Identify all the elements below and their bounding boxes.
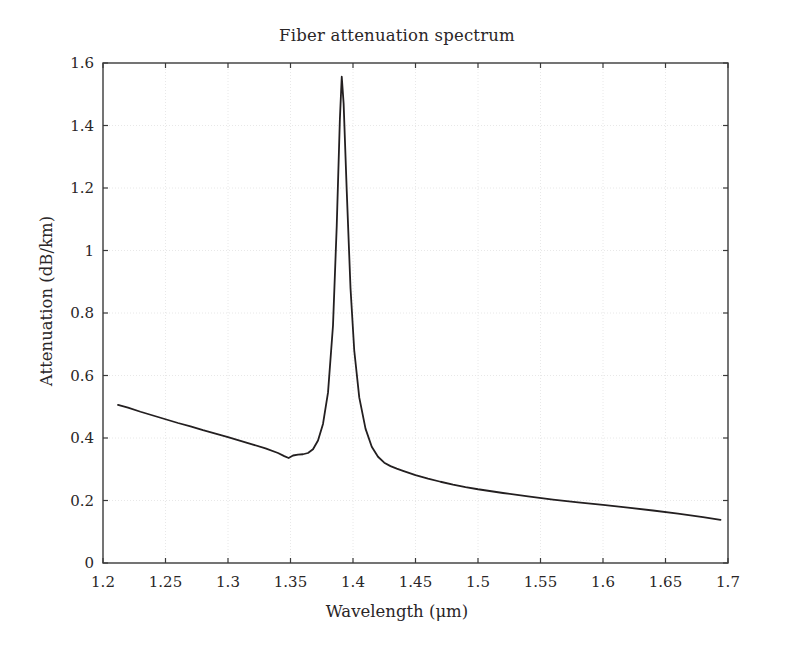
x-tick-label: 1.5 (466, 573, 490, 591)
x-tick-label: 1.65 (649, 573, 682, 591)
plot-area (0, 0, 794, 654)
x-tick-label: 1.25 (149, 573, 182, 591)
x-tick-label: 1.55 (524, 573, 557, 591)
y-tick-label: 1.4 (70, 117, 94, 135)
y-tick-label: 1.2 (70, 179, 94, 197)
gridlines (103, 63, 728, 563)
x-tick-label: 1.45 (399, 573, 432, 591)
x-tick-label: 1.3 (216, 573, 240, 591)
y-tick-label: 0.8 (70, 304, 94, 322)
x-tick-label: 1.4 (341, 573, 365, 591)
y-tick-label: 0.2 (70, 492, 94, 510)
y-tick-label: 0.4 (70, 429, 94, 447)
y-tick-label: 0 (84, 554, 94, 572)
data-line-attenuation (118, 77, 721, 520)
y-tick-label: 0.6 (70, 367, 94, 385)
x-tick-label: 1.7 (716, 573, 740, 591)
chart-figure: Fiber attenuation spectrum Attenuation (… (0, 0, 794, 654)
y-tick-label: 1.6 (70, 54, 94, 72)
x-tick-label: 1.6 (591, 573, 615, 591)
y-tick-label: 1 (84, 242, 94, 260)
x-tick-label: 1.35 (274, 573, 307, 591)
x-tick-label: 1.2 (91, 573, 115, 591)
